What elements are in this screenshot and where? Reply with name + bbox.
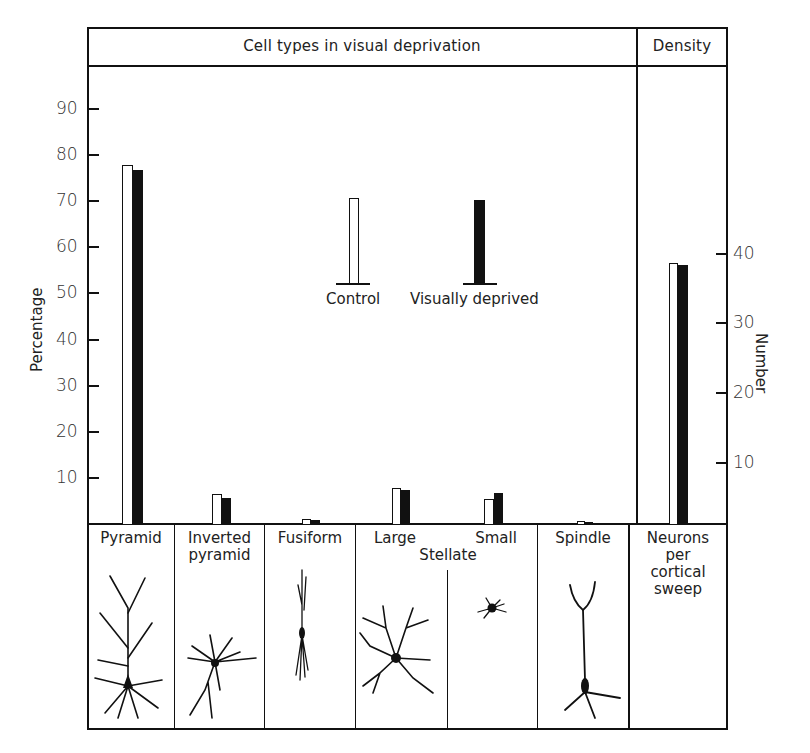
- y-axis-label-left: Percentage: [28, 288, 46, 372]
- category-large: Large: [365, 530, 425, 547]
- left-tick-label: 90: [56, 98, 78, 118]
- bar-spindle-deprived: [585, 522, 593, 524]
- left-tick-20: [89, 431, 99, 433]
- left-tick-label: 80: [56, 144, 78, 164]
- left-tick-label: 10: [56, 467, 78, 487]
- left-tick-60: [89, 246, 99, 248]
- category-density-line2: per: [629, 547, 727, 564]
- category-spindle: Spindle: [538, 530, 628, 547]
- category-density-line4: sweep: [629, 581, 727, 598]
- frame-right: [726, 27, 728, 730]
- right-tick-label: 30: [733, 312, 755, 332]
- category-inverted-line2: pyramid: [175, 547, 264, 564]
- right-tick-label: 10: [733, 452, 755, 472]
- category-stellate: Stellate: [410, 547, 486, 564]
- left-tick-70: [89, 200, 99, 202]
- bar-density-deprived: [678, 265, 688, 524]
- category-small: Small: [466, 530, 526, 547]
- left-tick-label: 40: [56, 329, 78, 349]
- bar-inverted-control: [212, 494, 222, 524]
- category-inverted-line1: Inverted: [175, 530, 264, 547]
- inverted-pyramid-neuron-icon: [180, 630, 262, 725]
- left-tick-40: [89, 339, 99, 341]
- header-bottom-line: [88, 65, 728, 67]
- right-tick-10: [716, 462, 727, 464]
- divider-stellate: [447, 570, 448, 729]
- category-fusiform: Fusiform: [265, 530, 355, 547]
- bar-spindle-control: [577, 521, 585, 524]
- left-tick-30: [89, 385, 99, 387]
- left-tick-50: [89, 292, 99, 294]
- bar-inverted-deprived: [222, 498, 231, 524]
- frame-top: [88, 27, 728, 29]
- divider-2: [264, 524, 265, 729]
- bar-large-stellate-control: [392, 488, 401, 524]
- left-tick-90: [89, 108, 99, 110]
- divider-5: [537, 524, 538, 729]
- right-tick-20: [716, 392, 727, 394]
- legend-deprived-swatch: [474, 200, 485, 284]
- legend-control-swatch: [349, 198, 359, 284]
- pyramid-neuron-icon: [90, 568, 172, 723]
- category-density-line3: cortical: [629, 564, 727, 581]
- legend-control-base: [336, 283, 370, 285]
- divider-3: [355, 524, 356, 729]
- legend-deprived-base: [463, 283, 497, 285]
- category-density-line1: Neurons: [629, 530, 727, 547]
- left-tick-80: [89, 154, 99, 156]
- left-tick-10: [89, 477, 99, 479]
- small-stellate-neuron-icon: [474, 596, 510, 620]
- legend-deprived-label: Visually deprived: [410, 290, 539, 308]
- left-tick-label: 70: [56, 190, 78, 210]
- density-title: Density: [637, 37, 727, 55]
- bar-pyramid-deprived: [133, 170, 143, 524]
- frame-left: [87, 27, 89, 730]
- right-tick-40: [716, 253, 727, 255]
- legend-control-label: Control: [326, 290, 380, 308]
- y-axis-label-right: Number: [752, 333, 770, 393]
- bar-large-stellate-deprived: [401, 490, 410, 524]
- category-pyramid: Pyramid: [88, 530, 174, 547]
- fusiform-neuron-icon: [290, 565, 320, 705]
- bar-fusiform-deprived: [311, 520, 320, 524]
- right-tick-label: 40: [733, 243, 755, 263]
- density-divider: [636, 27, 638, 525]
- right-tick-30: [716, 322, 727, 324]
- frame-bottom: [87, 728, 728, 730]
- bar-small-stellate-deprived: [494, 493, 503, 524]
- bar-density-control: [669, 263, 678, 524]
- left-tick-label: 60: [56, 236, 78, 256]
- chart-title: Cell types in visual deprivation: [88, 37, 636, 55]
- bar-pyramid-control: [122, 165, 133, 524]
- bar-fusiform-control: [302, 519, 311, 524]
- left-tick-label: 50: [56, 282, 78, 302]
- large-stellate-neuron-icon: [358, 598, 438, 698]
- left-tick-label: 20: [56, 421, 78, 441]
- left-tick-label: 30: [56, 375, 78, 395]
- bar-small-stellate-control: [484, 499, 494, 524]
- spindle-neuron-icon: [555, 580, 625, 720]
